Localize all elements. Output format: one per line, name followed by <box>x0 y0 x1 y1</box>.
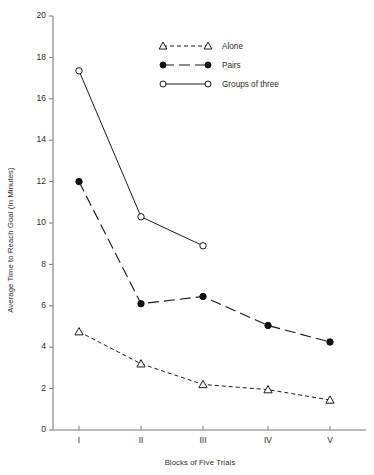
y-tick-label: 16 <box>37 93 47 103</box>
legend-item-pairs[interactable]: Pairs <box>160 61 241 70</box>
data-point-filled-circle <box>76 178 82 184</box>
x-axis-title: Blocks of Five Trials <box>165 458 236 467</box>
x-tick-label: I <box>78 435 80 445</box>
x-tick-label: II <box>139 435 144 445</box>
y-tick-label: 6 <box>41 300 46 310</box>
data-point-open-triangle <box>137 360 145 367</box>
data-point-filled-circle <box>200 293 206 299</box>
data-point-open-circle <box>205 81 211 87</box>
y-tick-label: 10 <box>37 217 47 227</box>
data-point-filled-circle <box>265 322 271 328</box>
legend-label: Pairs <box>222 61 241 70</box>
data-point-filled-circle <box>205 62 211 68</box>
data-point-open-triangle <box>75 328 83 335</box>
series-line <box>79 182 330 342</box>
y-tick-label: 4 <box>41 341 46 351</box>
x-tick-label: III <box>199 435 206 445</box>
chart-container: 02468101214161820 IIIIIIIVV AlonePairsGr… <box>0 0 374 475</box>
legend-item-alone[interactable]: Alone <box>159 42 243 51</box>
y-tick-label: 0 <box>41 424 46 434</box>
legend-item-groups-of-three[interactable]: Groups of three <box>160 80 279 89</box>
y-tick-label: 2 <box>41 383 46 393</box>
data-point-filled-circle <box>160 62 166 68</box>
data-point-open-circle <box>138 214 144 220</box>
x-tick-label: IV <box>264 435 272 445</box>
data-point-filled-circle <box>327 339 333 345</box>
x-tick-label: V <box>327 435 333 445</box>
chart-legend: AlonePairsGroups of three <box>159 42 279 89</box>
series-pairs <box>76 178 333 345</box>
data-point-open-circle <box>160 81 166 87</box>
data-point-open-circle <box>76 68 82 74</box>
y-tick-label: 14 <box>37 134 47 144</box>
y-tick-label: 20 <box>37 10 47 20</box>
series-line <box>79 332 330 400</box>
legend-label: Alone <box>222 42 243 51</box>
series-alone <box>75 328 334 404</box>
data-point-open-circle <box>200 243 206 249</box>
data-point-open-triangle <box>199 380 207 387</box>
series-groups-of-three <box>76 68 206 249</box>
y-tick-label: 12 <box>37 176 47 186</box>
y-axis: 02468101214161820 <box>37 10 53 434</box>
y-axis-title: Average Time to Reach Goal (In Minutes) <box>6 167 15 313</box>
y-tick-label: 18 <box>37 52 47 62</box>
series-layer <box>75 68 334 404</box>
y-tick-label: 8 <box>41 259 46 269</box>
x-axis: IIIIIIIVV <box>53 426 366 445</box>
legend-label: Groups of three <box>222 80 279 89</box>
line-chart: 02468101214161820 IIIIIIIVV AlonePairsGr… <box>0 0 374 475</box>
data-point-filled-circle <box>138 301 144 307</box>
